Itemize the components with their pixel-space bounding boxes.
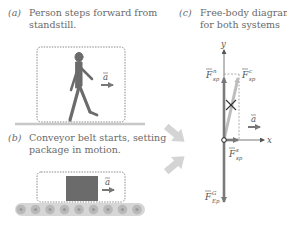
conveyor-belt bbox=[15, 203, 145, 216]
svg-text:Ep: Ep bbox=[211, 198, 220, 205]
accel-label-c: a bbox=[251, 114, 256, 124]
acceleration-vector-b: a bbox=[102, 177, 114, 190]
free-body-diagram: y x a F n sp bbox=[204, 39, 272, 205]
svg-text:F: F bbox=[241, 70, 249, 80]
svg-text:c: c bbox=[249, 68, 252, 74]
arrow-a-to-c-icon bbox=[161, 120, 190, 148]
svg-text:sp: sp bbox=[213, 76, 220, 83]
label-normal-force: F n sp bbox=[205, 68, 220, 83]
label-friction-force: F s sp bbox=[228, 147, 243, 162]
panel-b-illustration: a bbox=[15, 172, 145, 216]
origin-point bbox=[222, 138, 227, 143]
y-axis-label: y bbox=[220, 39, 226, 49]
svg-text:F: F bbox=[204, 192, 212, 202]
svg-text:n: n bbox=[213, 68, 217, 74]
svg-text:sp: sp bbox=[249, 76, 256, 83]
panel-a-illustration: a bbox=[15, 47, 145, 124]
svg-text:G: G bbox=[212, 190, 217, 196]
svg-text:F: F bbox=[228, 149, 236, 159]
label-gravity-force: F G Ep bbox=[204, 190, 220, 205]
label-contact-force: F c sp bbox=[241, 68, 256, 83]
svg-text:F: F bbox=[205, 70, 213, 80]
arrow-b-to-c-icon bbox=[161, 150, 190, 178]
walking-person-icon bbox=[70, 53, 97, 121]
connector-arrows bbox=[161, 120, 190, 177]
accel-label-a: a bbox=[103, 72, 108, 82]
accel-label-b: a bbox=[105, 177, 110, 187]
diagram-canvas: a a bbox=[0, 0, 287, 235]
x-axis-label: x bbox=[267, 135, 272, 145]
acceleration-vector-a: a bbox=[101, 72, 113, 85]
acceleration-vector-c: a bbox=[248, 114, 260, 127]
svg-text:s: s bbox=[236, 147, 239, 153]
svg-text:sp: sp bbox=[236, 155, 243, 162]
package-box bbox=[66, 176, 98, 201]
contact-force-vector bbox=[224, 78, 238, 140]
